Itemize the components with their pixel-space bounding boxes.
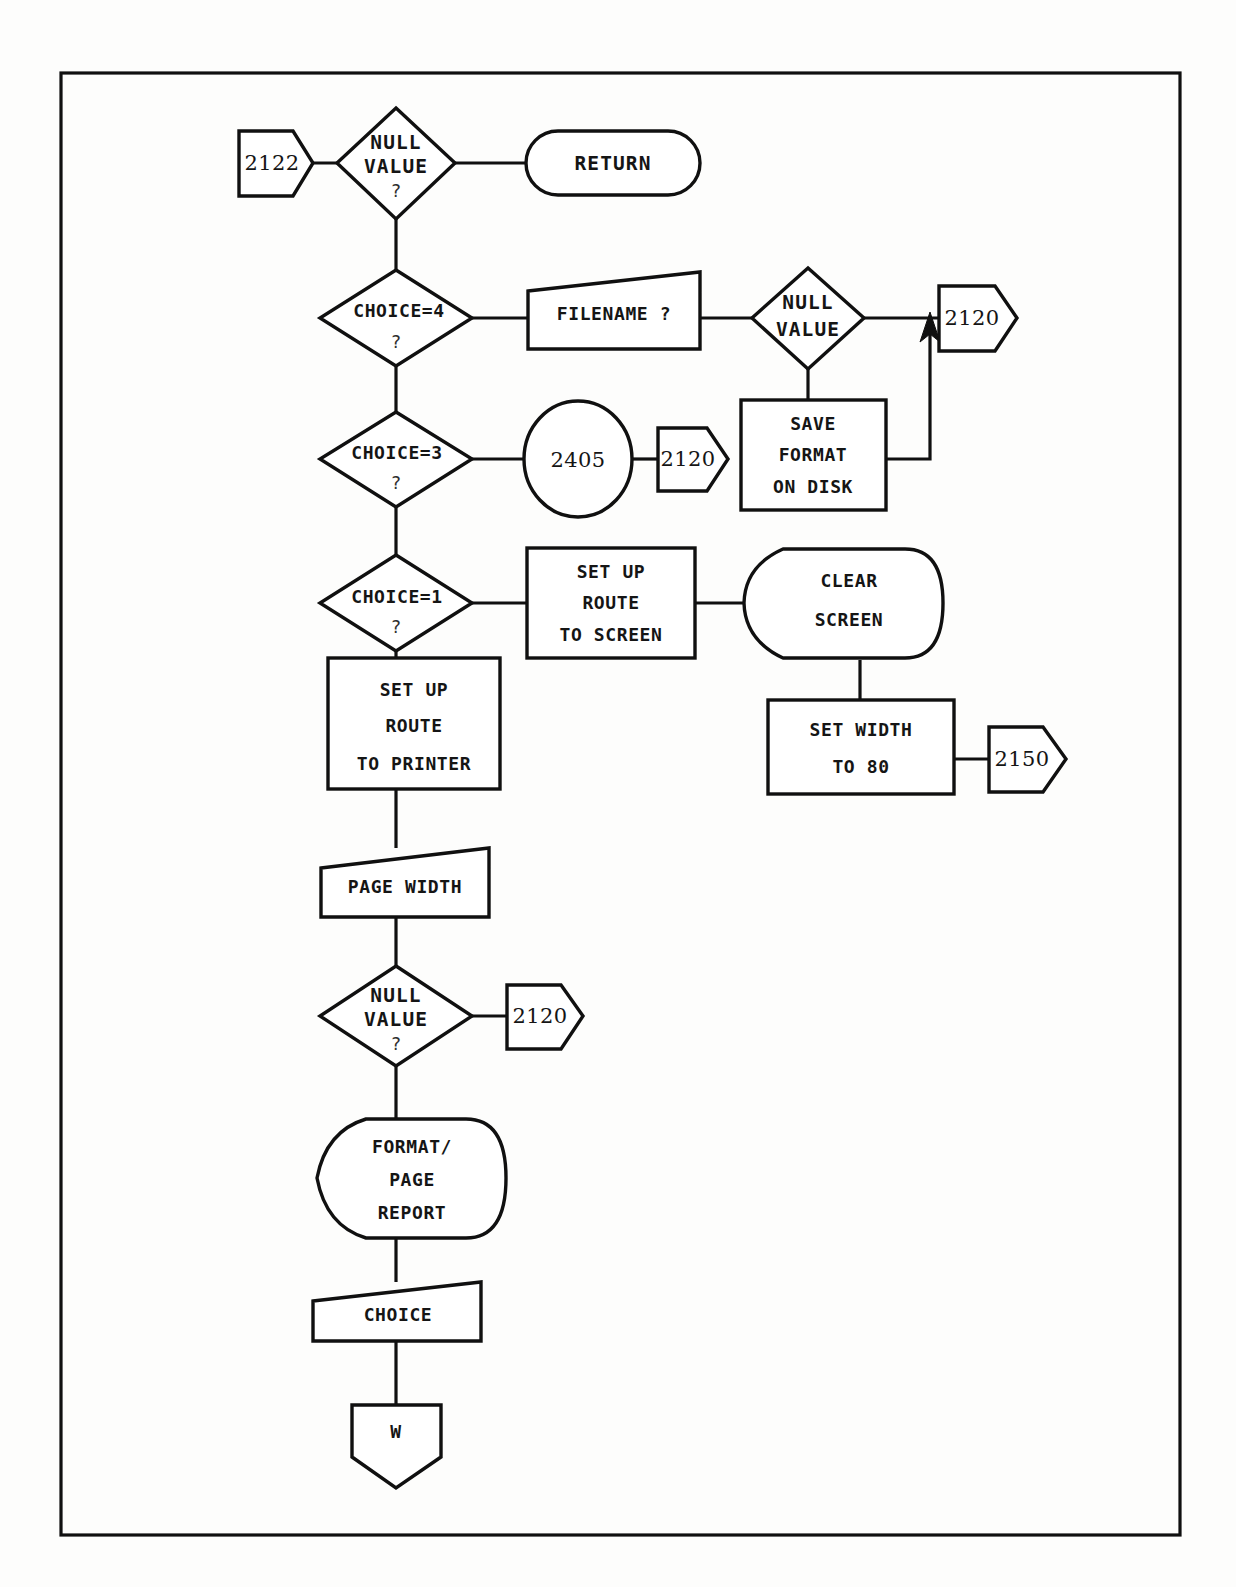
choice-1-line1: CHOICE=1 <box>351 586 443 607</box>
node-null-value-3[interactable]: NULL VALUE ? <box>320 966 472 1066</box>
exit-2120-c-label: 2120 <box>512 1004 567 1028</box>
exit-2120-a-label: 2120 <box>944 306 999 330</box>
set-width-line1: SET WIDTH <box>810 719 913 740</box>
call-2405-label: 2405 <box>550 448 605 472</box>
exit-2150-label: 2150 <box>994 747 1049 771</box>
choice-3-line2: ? <box>391 472 402 493</box>
node-null-value-1[interactable]: NULL VALUE ? <box>337 108 455 219</box>
node-exit-2120-b[interactable]: 2120 <box>658 428 728 491</box>
null-value-3-line1: NULL <box>370 984 421 1007</box>
save-format-line2: FORMAT <box>779 444 848 465</box>
clear-screen-line1: CLEAR <box>820 570 877 591</box>
format-page-report-line3: REPORT <box>378 1202 447 1223</box>
set-width-line2: TO 80 <box>832 756 889 777</box>
format-page-report-line1: FORMAT/ <box>372 1136 452 1157</box>
node-format-page-report[interactable]: FORMAT/ PAGE REPORT <box>317 1119 506 1238</box>
save-format-line1: SAVE <box>790 413 836 434</box>
return-label: RETURN <box>574 152 651 175</box>
node-choice-4[interactable]: CHOICE=4 ? <box>320 270 472 366</box>
flowchart-sheet: 2122 NULL VALUE ? RETURN CHOICE=4 ? FILE… <box>0 0 1236 1587</box>
node-route-printer[interactable]: SET UP ROUTE TO PRINTER <box>328 658 500 789</box>
node-choice-1[interactable]: CHOICE=1 ? <box>320 555 472 651</box>
node-page-width-input[interactable]: PAGE WIDTH <box>321 848 489 917</box>
save-format-line3: ON DISK <box>773 476 853 497</box>
route-printer-line1: SET UP <box>380 679 449 700</box>
node-exit-2120-a[interactable]: 2120 <box>939 286 1017 351</box>
route-screen-line3: TO SCREEN <box>560 624 663 645</box>
choice-4-line2: ? <box>391 331 402 352</box>
route-printer-line2: ROUTE <box>385 715 442 736</box>
node-filename-input[interactable]: FILENAME ? <box>528 272 700 349</box>
null-value-1-line3: ? <box>391 180 402 201</box>
choice-4-line1: CHOICE=4 <box>353 300 445 321</box>
choice-1-line2: ? <box>391 616 402 637</box>
node-choice-input[interactable]: CHOICE <box>313 1282 481 1341</box>
node-clear-screen[interactable]: CLEAR SCREEN <box>744 549 943 658</box>
route-screen-line2: ROUTE <box>582 592 639 613</box>
node-exit-w[interactable]: W <box>352 1405 441 1488</box>
exit-w-label: W <box>390 1421 401 1442</box>
entry-2122-label: 2122 <box>244 151 299 175</box>
null-value-2-line1: NULL <box>782 291 833 314</box>
exit-2120-b-label: 2120 <box>660 447 715 471</box>
choice-input-label: CHOICE <box>364 1304 433 1325</box>
node-choice-3[interactable]: CHOICE=3 ? <box>320 412 472 507</box>
node-route-screen[interactable]: SET UP ROUTE TO SCREEN <box>527 548 695 658</box>
format-page-report-line2: PAGE <box>389 1169 435 1190</box>
null-value-1-line2: VALUE <box>364 155 428 178</box>
null-value-3-line3: ? <box>391 1033 402 1054</box>
null-value-2-line2: VALUE <box>776 318 840 341</box>
null-value-1-line1: NULL <box>370 131 421 154</box>
node-exit-2120-c[interactable]: 2120 <box>507 985 583 1049</box>
node-return[interactable]: RETURN <box>526 131 700 195</box>
node-exit-2150[interactable]: 2150 <box>989 727 1066 792</box>
node-entry-2122[interactable]: 2122 <box>239 131 313 196</box>
route-printer-line3: TO PRINTER <box>357 753 471 774</box>
node-null-value-2[interactable]: NULL VALUE <box>752 268 864 369</box>
clear-screen-line2: SCREEN <box>815 609 884 630</box>
node-save-format[interactable]: SAVE FORMAT ON DISK <box>741 400 886 510</box>
null-value-3-line2: VALUE <box>364 1008 428 1031</box>
filename-input-label: FILENAME ? <box>557 303 671 324</box>
choice-3-line1: CHOICE=3 <box>351 442 443 463</box>
route-screen-line1: SET UP <box>577 561 646 582</box>
node-set-width-80[interactable]: SET WIDTH TO 80 <box>768 700 954 794</box>
node-call-2405[interactable]: 2405 <box>524 401 632 517</box>
flowchart-canvas: 2122 NULL VALUE ? RETURN CHOICE=4 ? FILE… <box>0 0 1236 1587</box>
page-width-label: PAGE WIDTH <box>348 876 462 897</box>
